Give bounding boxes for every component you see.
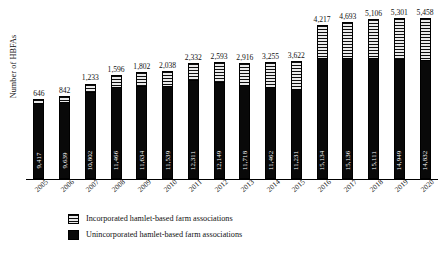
bar-segment-unincorporated[interactable]: 11,466: [111, 88, 122, 179]
stacked-bar[interactable]: 5,45814,832: [420, 18, 431, 179]
x-tick-label-2019: 2019: [394, 178, 410, 193]
x-tick-slot: 2020: [412, 181, 438, 211]
bar-group: 6469,4178429,6391,23310,8021,59611,4661,…: [26, 8, 438, 179]
bar-segment-incorporated[interactable]: 5,301: [394, 18, 405, 60]
bar-segment-incorporated[interactable]: 1,233: [85, 84, 96, 94]
bar-slot: 4,69315,136: [335, 8, 361, 179]
bar-segment-incorporated[interactable]: 4,693: [342, 22, 353, 59]
bar-segment-incorporated[interactable]: 2,593: [214, 62, 225, 83]
bar-value-label-unincorporated: 12,149: [216, 151, 223, 171]
bar-segment-incorporated[interactable]: 2,916: [239, 63, 250, 86]
chart-canvas: Number of HBFAs 6469,4178429,6391,23310,…: [0, 0, 448, 263]
stacked-bar[interactable]: 2,33212,311: [188, 63, 199, 179]
bar-slot: 5,30114,949: [387, 8, 413, 179]
bar-segment-incorporated[interactable]: 3,622: [291, 61, 302, 90]
stacked-bar[interactable]: 2,91611,718: [239, 63, 250, 179]
plot-area: 6469,4178429,6391,23310,8021,59611,4661,…: [26, 8, 438, 180]
bar-segment-unincorporated[interactable]: 12,311: [188, 81, 199, 179]
x-tick-slot: 2013: [232, 181, 258, 211]
x-tick-label-2017: 2017: [342, 178, 358, 193]
x-tick-slot: 2015: [284, 181, 310, 211]
bar-slot: 5,10615,111: [361, 8, 387, 179]
bar-segment-incorporated[interactable]: 3,255: [265, 62, 276, 88]
stacked-bar[interactable]: 4,69315,136: [342, 22, 353, 179]
bar-value-label-incorporated: 5,106: [365, 10, 382, 18]
x-tick-slot: 2007: [78, 181, 104, 211]
bar-value-label-incorporated: 2,916: [236, 54, 253, 62]
bar-value-label-incorporated: 1,596: [108, 66, 125, 74]
stacked-bar[interactable]: 4,21715,134: [317, 25, 328, 179]
bar-slot: 2,03811,539: [155, 8, 181, 179]
bar-value-label-unincorporated: 11,462: [267, 151, 274, 170]
bar-value-label-incorporated: 646: [33, 90, 44, 98]
x-tick-slot: 2008: [103, 181, 129, 211]
stacked-bar[interactable]: 2,03811,539: [162, 71, 173, 179]
legend-swatch-incorporated-icon: [68, 214, 79, 224]
legend-swatch-unincorporated-icon: [68, 230, 79, 240]
x-tick-label-2016: 2016: [317, 178, 333, 193]
bar-value-label-unincorporated: 12,311: [190, 151, 197, 170]
bar-segment-unincorporated[interactable]: 12,149: [214, 83, 225, 179]
bar-slot: 3,62211,231: [284, 8, 310, 179]
x-tick-label-2012: 2012: [214, 178, 230, 193]
legend-item-incorporated: Incorporated hamlet-based farm associati…: [68, 214, 242, 224]
bar-segment-incorporated[interactable]: 1,802: [136, 72, 147, 86]
bar-segment-unincorporated[interactable]: 11,718: [239, 86, 250, 179]
stacked-bar[interactable]: 1,80211,634: [136, 72, 147, 179]
stacked-bar[interactable]: 5,10615,111: [368, 19, 379, 179]
x-tick-label-2010: 2010: [162, 178, 178, 193]
x-tick-slot: 2009: [129, 181, 155, 211]
bar-segment-unincorporated[interactable]: 11,462: [265, 88, 276, 179]
bar-slot: 3,25511,462: [258, 8, 284, 179]
bar-slot: 4,21715,134: [309, 8, 335, 179]
bar-segment-incorporated[interactable]: 2,332: [188, 63, 199, 82]
bar-segment-incorporated[interactable]: 842: [59, 96, 70, 103]
bar-slot: 2,91611,718: [232, 8, 258, 179]
bar-segment-incorporated[interactable]: 5,458: [420, 18, 431, 61]
bar-segment-incorporated[interactable]: 2,038: [162, 71, 173, 87]
bar-segment-unincorporated[interactable]: 14,832: [420, 61, 431, 179]
x-tick-slot: 2014: [258, 181, 284, 211]
x-tick-slot: 2011: [181, 181, 207, 211]
bar-segment-unincorporated[interactable]: 9,417: [33, 104, 44, 179]
x-axis-tick-labels: 2005200620072008200920102011201220132014…: [26, 181, 438, 211]
x-tick-slot: 2017: [335, 181, 361, 211]
bar-value-label-unincorporated: 10,802: [87, 151, 94, 171]
x-tick-label-2008: 2008: [111, 178, 127, 193]
stacked-bar[interactable]: 6469,417: [33, 99, 44, 179]
bar-segment-unincorporated[interactable]: 11,539: [162, 87, 173, 179]
bar-value-label-incorporated: 3,255: [262, 53, 279, 61]
x-tick-label-2005: 2005: [33, 178, 49, 193]
stacked-bar[interactable]: 5,30114,949: [394, 18, 405, 179]
bar-value-label-unincorporated: 14,949: [396, 151, 403, 171]
bar-slot: 5,45814,832: [412, 8, 438, 179]
bar-value-label-unincorporated: 11,539: [164, 151, 171, 170]
bar-segment-unincorporated[interactable]: 14,949: [394, 60, 405, 179]
x-tick-slot: 2012: [206, 181, 232, 211]
stacked-bar[interactable]: 2,59312,149: [214, 62, 225, 179]
stacked-bar[interactable]: 1,23310,802: [85, 84, 96, 179]
stacked-bar[interactable]: 1,59611,466: [111, 75, 122, 179]
legend-label-incorporated: Incorporated hamlet-based farm associati…: [86, 215, 233, 223]
bar-segment-unincorporated[interactable]: 15,134: [317, 59, 328, 179]
bar-segment-incorporated[interactable]: 5,106: [368, 19, 379, 60]
stacked-bar[interactable]: 8429,639: [59, 96, 70, 179]
stacked-bar[interactable]: 3,62211,231: [291, 61, 302, 179]
bar-segment-unincorporated[interactable]: 11,231: [291, 90, 302, 179]
bar-segment-unincorporated[interactable]: 9,639: [59, 103, 70, 179]
x-tick-slot: 2005: [26, 181, 52, 211]
x-tick-label-2009: 2009: [136, 178, 152, 193]
bar-value-label-incorporated: 2,332: [185, 54, 202, 62]
bar-value-label-incorporated: 4,217: [314, 16, 331, 24]
bar-value-label-unincorporated: 15,136: [344, 151, 351, 171]
bar-segment-unincorporated[interactable]: 10,802: [85, 93, 96, 179]
bar-segment-unincorporated[interactable]: 15,111: [368, 59, 379, 179]
bar-segment-unincorporated[interactable]: 11,634: [136, 87, 147, 179]
stacked-bar[interactable]: 3,25511,462: [265, 62, 276, 179]
x-tick-label-2011: 2011: [188, 178, 204, 193]
x-tick-slot: 2006: [52, 181, 78, 211]
x-tick-label-2007: 2007: [85, 178, 101, 193]
bar-segment-incorporated[interactable]: 1,596: [111, 75, 122, 88]
bar-segment-unincorporated[interactable]: 15,136: [342, 59, 353, 179]
bar-segment-incorporated[interactable]: 4,217: [317, 25, 328, 58]
